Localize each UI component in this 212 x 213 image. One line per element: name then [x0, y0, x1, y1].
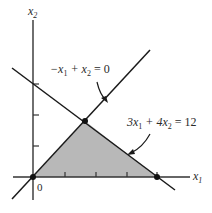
vertex-origin [30, 174, 36, 180]
arrow-head-2 [127, 149, 135, 155]
vertex-x-intercept [154, 174, 160, 180]
constraint-label-1: −x1 + x2 = 0 [50, 62, 110, 78]
lp-diagram: x2 x1 0 −x1 + x2 = 0 3x1 + 4x2 = 12 [0, 0, 212, 213]
x-axis-label: x1 [192, 169, 202, 185]
y-axis-label: x2 [27, 4, 37, 20]
y-axis-ticks [33, 84, 39, 146]
vertex-intersection [82, 118, 88, 124]
constraint-label-2: 3x1 + 4x2 = 12 [126, 115, 197, 131]
label-arrow-2 [131, 134, 150, 153]
origin-label: 0 [37, 181, 43, 193]
